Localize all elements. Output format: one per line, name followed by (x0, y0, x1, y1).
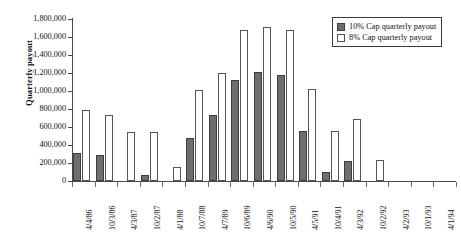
x-axis-tick-label: 4/1/94 (448, 210, 456, 230)
x-axis-tick-label: 4/6/90 (267, 210, 275, 230)
y-axis-tick-label: 1,400,000 (33, 51, 66, 59)
bar-8pct-cap (286, 30, 294, 181)
x-axis-tick-label: 4/4/86 (86, 210, 94, 230)
bar-10pct-cap (73, 153, 81, 181)
y-axis-tick-mark (68, 37, 73, 38)
bar-8pct-cap (376, 160, 384, 181)
y-axis-tick-label: 0 (62, 177, 66, 185)
y-axis-tick-label: 400,000 (39, 141, 66, 149)
bar-8pct-cap (240, 30, 248, 181)
x-axis-tick-labels: 4/4/8610/3/864/3/8710/2/874/1/8810/7/884… (72, 186, 456, 232)
bar-group (209, 19, 227, 181)
y-axis-tick-mark (68, 73, 73, 74)
y-axis-tick-mark (68, 127, 73, 128)
bar-10pct-cap (96, 155, 104, 181)
x-axis-tick-label: 4/3/92 (357, 210, 365, 230)
y-axis-tick-label: 1,800,000 (33, 15, 66, 23)
bar-8pct-cap (308, 89, 316, 181)
x-axis-tick-label: 4/5/91 (312, 210, 320, 230)
bar-10pct-cap (299, 131, 307, 181)
x-axis-tick-label: 10/6/89 (244, 206, 252, 230)
bar-10pct-cap (254, 72, 262, 181)
y-axis-tick-label: 800,000 (39, 105, 66, 113)
x-axis-line (72, 181, 456, 182)
y-axis-tick-mark (68, 19, 73, 20)
bar-8pct-cap (127, 132, 135, 181)
legend-item: 8% Cap quarterly payout (337, 32, 436, 43)
bar-group (96, 19, 114, 181)
bar-8pct-cap (263, 27, 271, 181)
x-axis-tick-label: 10/2/87 (154, 206, 162, 230)
bar-group (254, 19, 272, 181)
y-axis-tick-label: 200,000 (39, 159, 66, 167)
bar-group (141, 19, 159, 181)
x-axis-tick-label: 10/4/91 (335, 206, 343, 230)
bar-chart: Quarterly payout 1,800,0001,600,0001,400… (0, 0, 461, 232)
y-axis-tick-label: 1,200,000 (33, 69, 66, 77)
x-axis-tick-label: 4/7/89 (222, 210, 230, 230)
x-axis-tick-label: 10/5/90 (290, 206, 298, 230)
bar-group (277, 19, 295, 181)
bar-8pct-cap (105, 115, 113, 181)
bar-10pct-cap (231, 80, 239, 181)
bar-group (118, 19, 136, 181)
bar-group (73, 19, 91, 181)
y-axis-tick-mark (68, 55, 73, 56)
bar-8pct-cap (150, 132, 158, 182)
x-axis-tick-label: 4/2/93 (403, 210, 411, 230)
y-axis-tick-label: 1,600,000 (33, 33, 66, 41)
bar-8pct-cap (173, 167, 181, 181)
y-axis-tick-label: 600,000 (39, 123, 66, 131)
legend-label: 10% Cap quarterly payout (349, 22, 436, 31)
bar-group (164, 19, 182, 181)
bar-8pct-cap (353, 119, 361, 181)
x-axis-tick-label: 10/7/88 (199, 206, 207, 230)
bar-10pct-cap (186, 138, 194, 181)
bar-group (186, 19, 204, 181)
legend-label: 8% Cap quarterly payout (349, 33, 432, 42)
bar-8pct-cap (331, 131, 339, 181)
y-axis-tick-mark (68, 91, 73, 92)
y-axis-tick-mark (68, 109, 73, 110)
legend-swatch-dark (337, 23, 345, 31)
bar-10pct-cap (277, 75, 285, 181)
x-axis-tick-label: 10/3/86 (109, 206, 117, 230)
bar-10pct-cap (209, 115, 217, 181)
y-axis-tick-mark (68, 145, 73, 146)
bar-8pct-cap (82, 110, 90, 181)
legend-item: 10% Cap quarterly payout (337, 21, 436, 32)
y-axis-tick-label: 1,000,000 (33, 87, 66, 95)
bar-group (231, 19, 249, 181)
bar-10pct-cap (322, 172, 330, 181)
bar-8pct-cap (195, 90, 203, 181)
y-axis-tick-mark (68, 163, 73, 164)
x-axis-tick-mark (456, 182, 457, 187)
x-axis-tick-label: 4/1/88 (177, 210, 185, 230)
x-axis-tick-label: 10/2/92 (380, 206, 388, 230)
bar-group (299, 19, 317, 181)
bar-10pct-cap (141, 175, 149, 181)
bar-8pct-cap (218, 73, 226, 181)
y-axis-tick-labels: 1,800,0001,600,0001,400,0001,200,0001,00… (6, 15, 68, 185)
x-axis-tick-label: 4/3/87 (131, 210, 139, 230)
x-axis-tick-label: 10/1/93 (425, 206, 433, 230)
legend-swatch-light (337, 34, 345, 42)
bar-10pct-cap (344, 161, 352, 181)
chart-legend: 10% Cap quarterly payout8% Cap quarterly… (332, 17, 442, 47)
